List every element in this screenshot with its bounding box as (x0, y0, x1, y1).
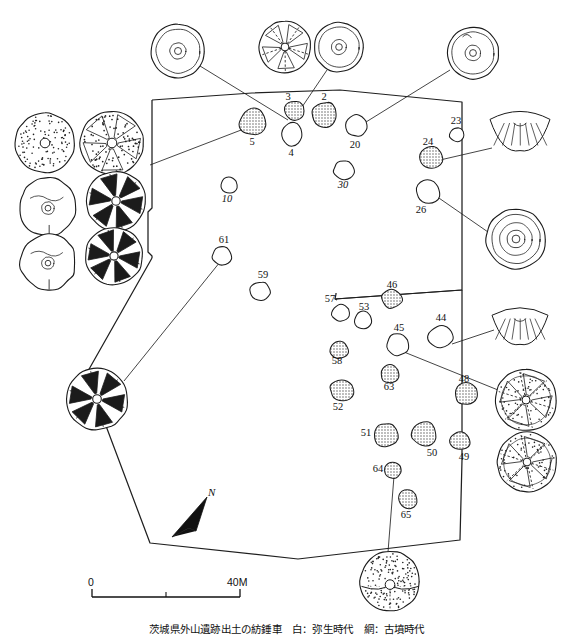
stipple-dot (61, 143, 63, 145)
stipple-dot (24, 151, 26, 153)
stipple-dot (532, 446, 534, 448)
stipple-dot (541, 462, 543, 464)
feature-45: 45 (387, 322, 409, 356)
feature-outline (456, 382, 478, 404)
stipple-dot (367, 593, 369, 595)
stipple-dot (389, 564, 391, 566)
stipple-dot (138, 153, 140, 155)
stipple-dot (112, 115, 114, 117)
stipple-dot (68, 143, 70, 145)
stipple-dot (380, 574, 382, 576)
stipple-dot (128, 149, 130, 151)
feature-outline (282, 122, 302, 146)
stipple-dot (31, 123, 33, 125)
stipple-dot (93, 166, 95, 168)
stipple-dot (414, 567, 416, 569)
stipple-dot (397, 585, 399, 587)
stipple-dot (35, 163, 37, 165)
stipple-dot (403, 577, 405, 579)
stipple-dot (405, 573, 407, 575)
stipple-dot (396, 556, 398, 558)
stipple-dot (500, 386, 502, 388)
stipple-dot (48, 120, 50, 122)
stipple-dot (538, 418, 540, 420)
stipple-dot (402, 590, 404, 592)
stipple-dot (553, 457, 555, 459)
stipple-dot (27, 136, 29, 138)
stipple-dot (538, 466, 540, 468)
feature-outline (416, 180, 439, 203)
feature-label-59: 59 (258, 269, 269, 280)
stipple-dot (51, 144, 53, 146)
stipple-dot (29, 163, 31, 165)
stipple-dot (109, 126, 111, 128)
stipple-dot (28, 143, 30, 145)
stipple-dot (500, 469, 502, 471)
site-distribution-map: 3254202324261030615957534645445863524851… (0, 0, 574, 642)
stipple-dot (61, 121, 63, 123)
stipple-dot (376, 570, 378, 572)
stipple-dot (403, 581, 405, 583)
feature-label-63: 63 (384, 381, 395, 392)
stipple-dot (365, 570, 367, 572)
stipple-dot (98, 158, 100, 160)
feature-label-61: 61 (219, 234, 230, 245)
stipple-dot (394, 591, 396, 593)
stipple-dot (388, 571, 390, 573)
stipple-dot (521, 487, 523, 489)
stipple-dot (407, 572, 409, 574)
stipple-dot (33, 134, 35, 136)
stipple-dot (53, 152, 55, 154)
stipple-dot (408, 594, 410, 596)
whorl-radial-blades (86, 172, 145, 231)
whorl-perforation (385, 580, 395, 590)
whorl-perforation (522, 396, 530, 404)
north-arrow: N (172, 486, 216, 537)
stipple-dot (368, 580, 370, 582)
stipple-dot (397, 570, 399, 572)
stipple-dot (502, 397, 504, 399)
feature-53: 53 (354, 301, 371, 329)
stipple-dot (380, 590, 382, 592)
stipple-dot (501, 449, 503, 451)
stipple-dot (388, 569, 390, 571)
whorl-perforation (470, 50, 477, 57)
stipple-dot (65, 156, 67, 158)
feature-44: 44 (428, 312, 454, 348)
feature-label-30: 30 (337, 179, 349, 190)
stipple-dot (63, 138, 65, 140)
stipple-dot (57, 158, 59, 160)
scale-start-label: 0 (88, 576, 94, 588)
stipple-dot (403, 568, 405, 570)
stipple-dot (18, 145, 20, 147)
north-arrow-label: N (207, 486, 216, 498)
stipple-dot (539, 462, 541, 464)
stipple-dot (106, 134, 108, 136)
stipple-dot (49, 162, 51, 164)
stipple-dot (378, 605, 380, 607)
whorl-perforation (45, 260, 51, 266)
stipple-dot (521, 416, 523, 418)
stipple-dot (108, 159, 110, 161)
stipple-dot (26, 126, 28, 128)
stipple-dot (28, 129, 30, 131)
stipple-dot (402, 601, 404, 603)
stipple-dot (116, 165, 118, 167)
stipple-dot (47, 115, 49, 117)
feature-label-44: 44 (436, 312, 447, 323)
stipple-dot (102, 145, 104, 147)
stipple-dot (34, 139, 36, 141)
stipple-dot (123, 136, 125, 138)
stipple-dot (63, 150, 65, 152)
stipple-dot (535, 380, 537, 382)
feature-label-10: 10 (222, 193, 233, 204)
stipple-dot (530, 434, 532, 436)
feature-outline (385, 462, 402, 478)
feature-2: 2 (312, 91, 336, 127)
stipple-dot (548, 444, 550, 446)
feature-label-46: 46 (387, 279, 398, 290)
feature-outline (399, 490, 417, 509)
stipple-dot (381, 592, 383, 594)
stipple-dot (121, 150, 123, 152)
leader-lines (124, 66, 498, 552)
